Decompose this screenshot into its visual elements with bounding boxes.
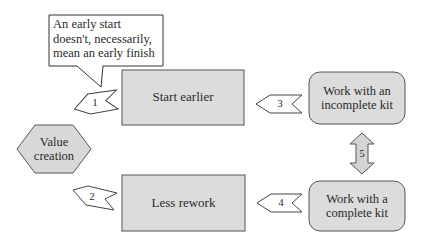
incomplete-kit-label: Work with an incomplete kit [316, 72, 398, 124]
complete-kit-label: Work with a complete kit [316, 181, 398, 231]
start-earlier-label: Start earlier [122, 70, 244, 125]
arrow-5-number: 5 [355, 147, 369, 159]
less-rework-label: Less rework [122, 175, 245, 231]
arrow-2-number: 2 [85, 190, 99, 202]
arrow-3-number: 3 [273, 97, 287, 109]
arrow-1-number: 1 [88, 96, 102, 108]
arrow-4-number: 4 [274, 196, 288, 208]
value-creation-label: Value creation [28, 128, 80, 170]
callout-note: An early start doesn't, necessarily, mea… [53, 17, 161, 61]
